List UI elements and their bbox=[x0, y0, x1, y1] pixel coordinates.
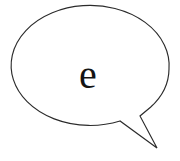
speech-balloon-graphic: e bbox=[0, 0, 180, 161]
speech-balloon-canvas: e bbox=[0, 0, 180, 161]
balloon-letter-e: e bbox=[79, 52, 97, 97]
